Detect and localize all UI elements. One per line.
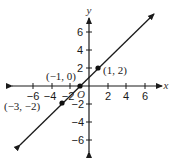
point-neg3-neg2 [59, 100, 64, 105]
point-neg1-0 [77, 83, 82, 88]
point-label-1-2: (1, 2) [103, 64, 127, 77]
svg-text:6: 6 [77, 26, 83, 38]
x-tick-labels: −6 −4 −2 2 4 6 [27, 90, 148, 102]
y-axis-label: y [86, 4, 92, 16]
svg-text:2: 2 [105, 90, 111, 102]
svg-text:−6: −6 [71, 134, 84, 146]
svg-text:6: 6 [142, 90, 148, 102]
svg-text:2: 2 [77, 62, 83, 74]
point-1-2 [95, 65, 100, 70]
svg-text:−4: −4 [71, 116, 84, 128]
svg-text:−4: −4 [44, 90, 57, 102]
svg-text:4: 4 [77, 44, 83, 56]
graph-line [20, 14, 154, 145]
coordinate-plane: −6 −4 −2 2 4 6 6 4 2 −2 −4 −6 y x O (−3,… [0, 0, 172, 158]
svg-text:4: 4 [123, 90, 129, 102]
point-label-neg1-0: (−1, 0) [46, 70, 76, 83]
point-label-neg3-neg2: (−3, −2) [4, 100, 41, 113]
origin-label: O [77, 88, 85, 100]
x-axis-label: x [163, 79, 169, 91]
